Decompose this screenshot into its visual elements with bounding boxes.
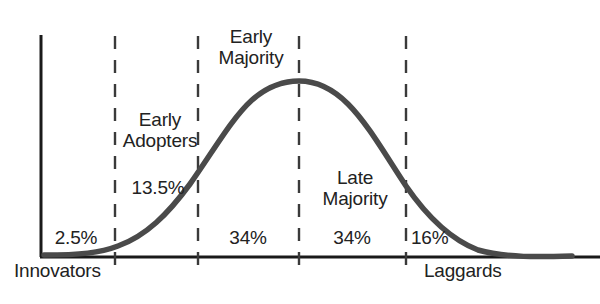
segment-label-late-majority: Late Majority xyxy=(305,168,405,209)
segment-label-innovators: Innovators xyxy=(14,261,101,282)
segment-label-early-majority: Early Majority xyxy=(203,27,299,68)
segment-label-early-adopters-line2: Adopters xyxy=(120,131,200,152)
diffusion-of-innovations-figure: Early Adopters Early Majority Late Major… xyxy=(0,0,600,304)
segment-label-early-adopters-line1: Early xyxy=(120,110,200,131)
percent-label-late-majority: 34% xyxy=(320,228,384,249)
segment-label-laggards: Laggards xyxy=(424,261,502,282)
percent-label-early-majority: 34% xyxy=(216,228,280,249)
segment-label-early-adopters: Early Adopters xyxy=(120,110,200,151)
segment-label-late-majority-line2: Majority xyxy=(305,189,405,210)
bell-curve-chart xyxy=(0,0,600,304)
percent-label-innovators: 2.5% xyxy=(45,228,107,249)
segment-label-late-majority-line1: Late xyxy=(305,168,405,189)
segment-label-early-majority-line1: Early xyxy=(203,27,299,48)
percent-label-early-adopters: 13.5% xyxy=(120,178,196,199)
segment-label-early-majority-line2: Majority xyxy=(203,48,299,69)
percent-label-laggards: 16% xyxy=(411,228,467,249)
